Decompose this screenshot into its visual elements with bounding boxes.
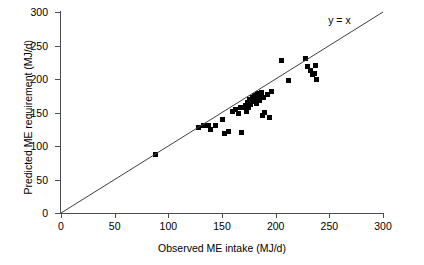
scatter-chart-figure: 050100150200250300 050100150200250300 y … [0,0,424,265]
x-axis-title: Observed ME intake (MJ/d) [112,243,332,254]
x-tick-mark [276,213,277,218]
data-point [213,123,218,128]
x-tick-mark [383,213,384,218]
x-tick-mark [222,213,223,218]
data-point [269,89,274,94]
x-tick-label: 100 [148,221,188,232]
data-point [226,129,231,134]
x-tick-label: 50 [95,221,135,232]
y-tick-mark [55,79,61,80]
x-tick-mark [61,213,62,218]
x-tick-mark [115,213,116,218]
y-tick-mark [55,113,61,114]
data-point [208,127,213,132]
data-point [259,90,264,95]
data-point [153,152,158,157]
data-point [314,77,319,82]
y-tick-mark [55,146,61,147]
data-point [196,125,201,130]
y-axis-title: Predicted ME requirement (MJ/d) [23,7,34,227]
data-point [286,78,291,83]
data-point [312,71,317,76]
plot-area [61,12,383,213]
data-point [279,58,284,63]
x-tick-label: 0 [41,221,81,232]
x-tick-label: 150 [202,221,242,232]
data-point [236,111,241,116]
data-point [262,110,267,115]
y-tick-mark [55,180,61,181]
x-tick-label: 250 [309,221,349,232]
x-tick-mark [329,213,330,218]
x-tick-label: 200 [256,221,296,232]
data-point [239,130,244,135]
x-tick-mark [168,213,169,218]
y-tick-mark [55,12,61,13]
data-point [313,63,318,68]
data-point [220,117,225,122]
identity-line-label: y = x [328,15,350,26]
x-tick-label: 300 [363,221,403,232]
data-point [303,56,308,61]
y-tick-mark [55,46,61,47]
data-point [267,115,272,120]
